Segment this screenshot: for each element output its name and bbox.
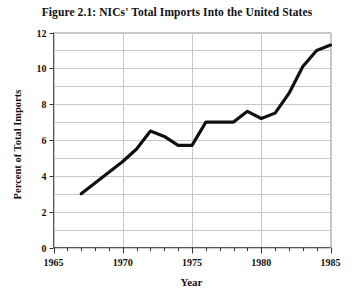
y-tick-label: 0 — [42, 243, 47, 254]
y-tick-label: 2 — [42, 207, 47, 218]
x-tick-label: 1980 — [251, 257, 271, 268]
y-tick-label: 12 — [37, 28, 47, 39]
x-tick-label: 1965 — [44, 257, 64, 268]
y-axis-label: Percent of Total Imports — [12, 65, 23, 225]
x-tick-label: 1975 — [182, 257, 202, 268]
y-tick-label: 8 — [42, 99, 47, 110]
y-tick-label: 10 — [37, 63, 47, 74]
x-axis-label: Year — [53, 276, 330, 288]
line-chart-plot: 024681012 19651970197519801985 — [0, 0, 354, 307]
data-line — [81, 45, 330, 194]
x-axis-tick-labels: 19651970197519801985 — [44, 257, 341, 268]
x-tick-label: 1970 — [113, 257, 133, 268]
x-tick-label: 1985 — [321, 257, 341, 268]
y-axis-tick-labels: 024681012 — [37, 28, 47, 254]
y-tick-label: 4 — [42, 171, 47, 182]
figure-container: Figure 2.1: NICs' Total Imports Into the… — [0, 0, 354, 307]
y-tick-label: 6 — [42, 135, 47, 146]
data-line-series — [81, 45, 330, 194]
y-axis-ticks — [50, 34, 54, 249]
